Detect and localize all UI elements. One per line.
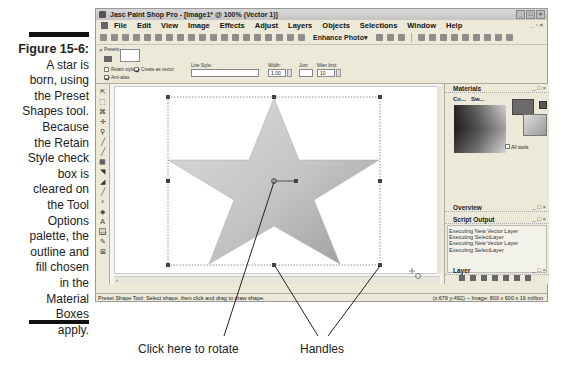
color-spectrum[interactable] <box>454 105 506 153</box>
materials-palette-controls[interactable]: _ □ × <box>532 84 546 93</box>
menu-view[interactable]: View <box>161 20 178 31</box>
script-editor-icon[interactable] <box>506 34 513 41</box>
all-tools-checkbox[interactable] <box>505 144 510 149</box>
toggle-palette-icon[interactable] <box>243 34 250 41</box>
new-icon[interactable] <box>100 34 107 41</box>
miter-limit-input[interactable]: 10 <box>317 69 335 77</box>
gradient-icon[interactable] <box>429 34 436 41</box>
ruler-icon[interactable] <box>462 34 469 41</box>
layers-icon[interactable] <box>265 34 272 41</box>
menu-file[interactable]: File <box>114 20 127 31</box>
vertical-scrollbar[interactable] <box>437 86 442 274</box>
open-icon[interactable] <box>111 34 118 41</box>
menu-edit[interactable]: Edit <box>137 20 151 31</box>
undo-icon[interactable] <box>166 34 173 41</box>
menu-adjust[interactable]: Adjust <box>255 20 278 31</box>
scratch-remover-icon[interactable]: ▦ <box>99 158 106 165</box>
dodge-tool-icon[interactable]: ◥ <box>99 168 106 175</box>
move-tool-icon[interactable]: ⌘ <box>99 108 106 115</box>
clone-brush-icon[interactable]: ╱ <box>99 148 106 155</box>
retain-style-checkbox[interactable] <box>104 67 109 72</box>
color-replacer-icon[interactable]: ◈ <box>99 208 106 215</box>
cut-icon[interactable] <box>188 34 195 41</box>
document-window-controls[interactable]: _ ▫ × <box>531 20 543 31</box>
eraser-tool-icon[interactable]: ◢ <box>99 178 106 185</box>
mask-icon[interactable] <box>451 34 458 41</box>
create-as-vector-checkbox[interactable] <box>134 67 139 72</box>
save-icon[interactable] <box>144 34 151 41</box>
presets-dropdown-icon[interactable] <box>104 56 112 62</box>
foreground-color-swatch[interactable] <box>539 101 547 109</box>
preset-shape-tool-icon[interactable]: ▭ <box>99 228 106 235</box>
paste-new-icon[interactable] <box>221 34 228 41</box>
tab-swatches[interactable]: Sw... <box>471 96 484 102</box>
menu-image[interactable]: Image <box>188 20 210 31</box>
overview-palette-controls[interactable]: _ □ × <box>532 203 546 212</box>
new-adjustment-layer-icon[interactable] <box>492 275 498 281</box>
maximize-button[interactable]: □ <box>526 10 535 19</box>
script-output-palette-controls[interactable]: _ □ × <box>532 215 546 224</box>
selection-tool-icon[interactable]: ⬚ <box>99 98 106 105</box>
script-icon[interactable] <box>473 34 480 41</box>
shape-picker[interactable] <box>120 49 140 62</box>
new-raster-layer-icon[interactable] <box>459 275 465 281</box>
materials-palette-title[interactable]: Materials _ □ × <box>445 84 549 93</box>
new-vector-layer-icon[interactable] <box>470 275 476 281</box>
background-material-swatch[interactable] <box>523 114 547 136</box>
menu-effects[interactable]: Effects <box>220 20 245 31</box>
line-style-dropdown[interactable] <box>191 69 259 77</box>
text-tool-icon[interactable]: A <box>99 218 106 225</box>
brush-icon[interactable] <box>418 34 425 41</box>
overview-icon[interactable] <box>298 34 305 41</box>
enhance-photo-button[interactable]: Enhance Photo▾ <box>313 34 368 42</box>
minimize-button[interactable]: _ <box>516 10 525 19</box>
palette-close-icon[interactable]: × <box>99 47 103 53</box>
paint-brush-icon[interactable]: ╱ <box>99 138 106 145</box>
paste-icon[interactable] <box>210 34 217 41</box>
browse-icon[interactable] <box>122 34 129 41</box>
crop-tool-icon[interactable]: ✛ <box>99 118 106 125</box>
picture-tube-icon[interactable]: ╱ <box>99 188 106 195</box>
menu-layers[interactable]: Layers <box>288 20 312 31</box>
scan-icon[interactable] <box>133 34 140 41</box>
script-output-palette-title[interactable]: Script Output _ □ × <box>445 215 549 224</box>
redo-icon[interactable] <box>177 34 184 41</box>
print-icon[interactable] <box>155 34 162 41</box>
overview-palette-title[interactable]: Overview _ □ × <box>445 203 549 212</box>
width-stepper[interactable] <box>287 69 292 77</box>
layer-properties-icon[interactable] <box>525 275 531 281</box>
document-icon[interactable] <box>101 22 108 29</box>
grid-icon[interactable] <box>287 34 294 41</box>
title-bar[interactable]: Jasc Paint Shop Pro - [Image1* @ 100% (V… <box>96 9 547 20</box>
text-icon[interactable] <box>440 34 447 41</box>
histogram-icon[interactable] <box>276 34 283 41</box>
anti-alias-checkbox[interactable] <box>104 75 109 80</box>
dropper-tool-icon[interactable]: ⚲ <box>99 128 106 135</box>
tab-color[interactable]: Co... <box>453 96 466 102</box>
color-balance-icon[interactable] <box>398 34 405 41</box>
object-selector-icon[interactable]: ⊠ <box>99 248 106 255</box>
menu-objects[interactable]: Objects <box>322 20 350 31</box>
foreground-material-swatch[interactable] <box>512 99 534 115</box>
horizontal-scrollbar[interactable]: ‹ <box>114 276 440 284</box>
pan-tool-icon[interactable]: ⇱ <box>99 88 106 95</box>
duplicate-layer-icon[interactable] <box>503 275 509 281</box>
clarify-icon[interactable] <box>376 34 383 41</box>
new-mask-layer-icon[interactable] <box>481 275 487 281</box>
paste-layer-icon[interactable] <box>232 34 239 41</box>
menu-selections[interactable]: Selections <box>360 20 398 31</box>
run-script-icon[interactable] <box>495 34 502 41</box>
flood-fill-icon[interactable]: ♆ <box>99 198 106 205</box>
image-canvas[interactable] <box>114 86 440 274</box>
miter-limit-stepper[interactable] <box>336 69 341 77</box>
pen-tool-icon[interactable]: ✎ <box>99 238 106 245</box>
width-input[interactable]: 1.00 <box>268 69 286 77</box>
menu-help[interactable]: Help <box>446 20 462 31</box>
record-icon[interactable] <box>484 34 491 41</box>
close-button[interactable]: × <box>536 10 545 19</box>
delete-layer-icon[interactable] <box>514 275 520 281</box>
menu-window[interactable]: Window <box>407 20 436 31</box>
layer-palette-controls[interactable]: _ □ × <box>532 266 546 275</box>
copy-icon[interactable] <box>199 34 206 41</box>
materials-icon[interactable] <box>254 34 261 41</box>
